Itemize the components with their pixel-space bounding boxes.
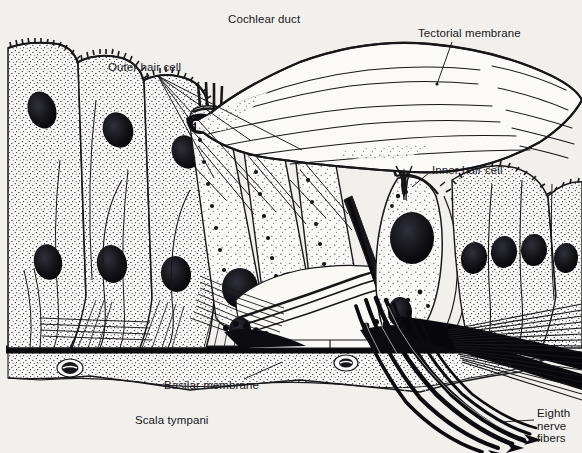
label-inner-hair-cell: Inner hair cell — [432, 164, 503, 177]
organ-of-corti-figure: Cochlear duct Outer hair cell Tectorial … — [0, 0, 582, 453]
label-cochlear-duct: Cochlear duct — [228, 13, 300, 26]
anatomy-illustration — [0, 0, 582, 453]
label-tectorial-membrane: Tectorial membrane — [418, 27, 521, 40]
label-basilar-membrane: Basilar membrane — [164, 379, 259, 392]
label-scala-tympani: Scala tympani — [135, 414, 209, 427]
inner-sulcus-cells — [452, 161, 582, 348]
label-eighth-nerve-fibers: Eighth nerve fibers — [537, 407, 581, 445]
blood-vessel-left — [57, 359, 83, 377]
blood-vessel-right — [334, 355, 358, 371]
leader-line-dots — [435, 82, 438, 85]
label-outer-hair-cell: Outer hair cell — [108, 61, 181, 74]
